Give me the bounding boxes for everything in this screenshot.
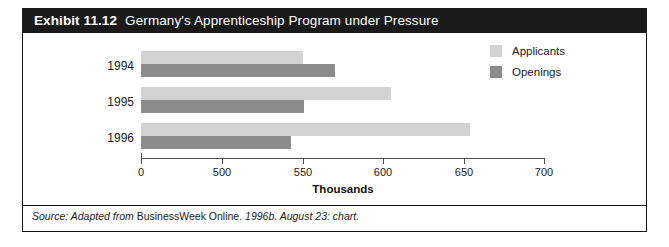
source-suffix: 1996b. August 23: chart. [245, 210, 359, 222]
bar-openings-1996 [141, 136, 291, 149]
source-publication: BusinessWeek Online. [137, 210, 242, 222]
x-axis-line [141, 158, 545, 159]
chart-plot-area: Applicants Openings 1994 1995 1996 0 [22, 33, 647, 232]
bar-applicants-1994 [141, 51, 303, 64]
bar-applicants-1996 [141, 123, 470, 136]
bar-openings-1994 [141, 64, 335, 77]
legend-swatch-applicants [490, 45, 502, 57]
bar-openings-1995 [141, 100, 304, 113]
category-label-1996: 1996 [84, 131, 134, 145]
x-tick-600 [383, 159, 384, 164]
source-note: Source: Adapted from BusinessWeek Online… [32, 210, 359, 222]
x-tick-label-500: 500 [213, 166, 231, 178]
x-tick-label-550: 550 [294, 166, 312, 178]
x-tick-label-0: 0 [138, 166, 144, 178]
exhibit-title-bar: Exhibit 11.12 Germany's Apprenticeship P… [22, 8, 647, 33]
x-axis-title: Thousands [141, 183, 545, 195]
x-tick-label-700: 700 [535, 166, 553, 178]
x-tick-500 [222, 159, 223, 164]
exhibit-figure: Exhibit 11.12 Germany's Apprenticeship P… [0, 0, 669, 247]
bar-applicants-1995 [141, 87, 391, 100]
legend-item-applicants: Applicants [490, 45, 565, 57]
legend-label-applicants: Applicants [512, 45, 565, 57]
x-tick-650 [464, 159, 465, 164]
x-tick-0 [141, 159, 142, 164]
exhibit-number: Exhibit 11.12 [34, 13, 117, 28]
legend-label-openings: Openings [512, 66, 561, 78]
x-tick-label-650: 650 [455, 166, 473, 178]
source-prefix: Source: Adapted from [32, 210, 134, 222]
exhibit-title: Germany's Apprenticeship Program under P… [125, 13, 438, 28]
legend-item-openings: Openings [490, 66, 565, 78]
x-tick-700 [544, 159, 545, 164]
legend-swatch-openings [490, 66, 502, 78]
category-label-1994: 1994 [84, 59, 134, 73]
x-tick-550 [303, 159, 304, 164]
chart-legend: Applicants Openings [490, 45, 565, 87]
source-divider [22, 205, 647, 206]
category-label-1995: 1995 [84, 95, 134, 109]
x-tick-label-600: 600 [374, 166, 392, 178]
